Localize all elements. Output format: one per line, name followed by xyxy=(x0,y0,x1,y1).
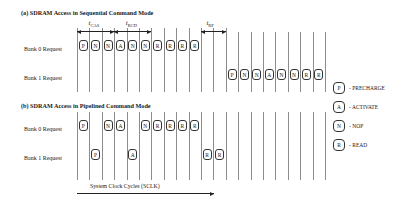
clock-line xyxy=(89,112,90,180)
clock-line xyxy=(127,112,128,180)
clock-line xyxy=(139,112,140,180)
command-box-n: N xyxy=(252,69,261,80)
clock-line xyxy=(238,32,239,92)
command-box-a: A xyxy=(116,120,125,131)
command-box-n: N xyxy=(240,69,249,80)
clock-line xyxy=(127,28,128,92)
command-box-n: N xyxy=(128,40,137,51)
clock-line xyxy=(77,28,78,92)
section-b-bank0-label: Bank 0 Request xyxy=(24,126,62,132)
command-box-r: R xyxy=(166,120,175,131)
clock-line xyxy=(102,112,103,180)
section-b-title: (b) SDRAM Access in Pipelined Command Mo… xyxy=(21,102,151,109)
clock-line xyxy=(288,112,289,180)
clock-line xyxy=(213,28,214,92)
clock-line xyxy=(251,112,252,180)
clock-line xyxy=(89,28,90,92)
command-box-r: R xyxy=(166,40,175,51)
command-box-n: N xyxy=(91,40,100,51)
clock-line xyxy=(139,28,140,92)
timing-arrow-rcd xyxy=(114,31,151,32)
command-box-r: R xyxy=(178,120,187,131)
command-box-r: R xyxy=(190,120,199,131)
timing-arrow-cas xyxy=(77,31,114,32)
section-a-title: (a) SDRAM Access in Sequential Command M… xyxy=(21,9,153,16)
section-a-bank0-label: Bank 0 Request xyxy=(24,46,62,52)
clock-line xyxy=(164,112,165,180)
command-box-r: R xyxy=(302,69,311,80)
clock-line xyxy=(325,32,326,92)
clock-axis-arrow xyxy=(77,193,214,194)
section-a-bank1-label: Bank 1 Request xyxy=(24,75,62,81)
timing-label-rcd: tRCD xyxy=(126,19,137,28)
clock-line xyxy=(164,28,165,92)
clock-line xyxy=(201,28,202,92)
command-box-r: R xyxy=(215,149,224,160)
clock-line xyxy=(213,112,214,180)
clock-line xyxy=(263,32,264,92)
legend-box-a: A xyxy=(333,101,345,113)
command-box-r: R xyxy=(153,40,162,51)
clock-line xyxy=(263,112,264,180)
command-box-a: A xyxy=(116,40,125,51)
clock-line xyxy=(238,112,239,180)
command-box-n: N xyxy=(104,40,113,51)
command-box-n: N xyxy=(290,69,299,80)
clock-line xyxy=(251,32,252,92)
clock-line xyxy=(176,28,177,92)
clock-line xyxy=(300,112,301,180)
legend-text-r: - READ xyxy=(349,142,367,148)
command-box-r: R xyxy=(153,120,162,131)
clock-line xyxy=(201,112,202,180)
timing-arrow-rp xyxy=(201,31,226,32)
clock-line xyxy=(313,112,314,180)
clock-line xyxy=(300,32,301,92)
legend-box-r: R xyxy=(333,139,345,151)
legend-box-n: N xyxy=(333,120,345,132)
clock-line xyxy=(275,32,276,92)
clock-line xyxy=(313,32,314,92)
command-box-r: R xyxy=(314,69,323,80)
clock-line xyxy=(226,28,227,92)
command-box-p: P xyxy=(228,69,237,80)
command-box-r: R xyxy=(178,40,187,51)
clock-axis-label: System Clock Cycles (SCLK) xyxy=(90,183,160,189)
clock-line xyxy=(275,112,276,180)
command-box-r: R xyxy=(190,40,199,51)
clock-line xyxy=(226,112,227,180)
section-b-bank1-label: Bank 1 Request xyxy=(24,155,62,161)
legend-text-p: - PRECHARGE xyxy=(349,85,385,91)
command-box-p: P xyxy=(79,40,88,51)
command-box-n: N xyxy=(141,120,150,131)
command-box-a: A xyxy=(128,149,137,160)
clock-line xyxy=(114,28,115,92)
legend-text-a: - ACTIVATE xyxy=(349,104,378,110)
command-box-n: N xyxy=(141,40,150,51)
legend-box-p: P xyxy=(333,82,345,94)
timing-label-rp: tRP xyxy=(206,19,213,28)
command-box-p: P xyxy=(79,120,88,131)
command-box-r: R xyxy=(203,149,212,160)
command-box-n: N xyxy=(104,120,113,131)
timing-label-cas: tCAS xyxy=(89,19,100,28)
clock-line xyxy=(325,112,326,180)
command-box-a: A xyxy=(265,69,274,80)
clock-line xyxy=(77,112,78,180)
clock-line xyxy=(189,28,190,92)
clock-line xyxy=(151,28,152,92)
command-box-p: P xyxy=(91,149,100,160)
clock-line xyxy=(102,28,103,92)
legend-text-n: - NOP xyxy=(349,123,363,129)
command-box-n: N xyxy=(277,69,286,80)
clock-line xyxy=(288,32,289,92)
